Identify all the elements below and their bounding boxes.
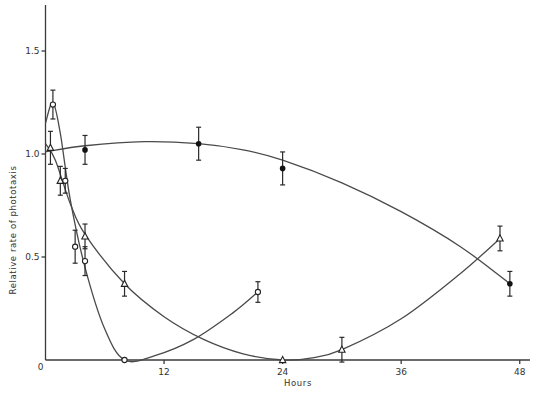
open-circle-marker (73, 244, 78, 249)
data-point (255, 282, 260, 303)
y-tick-label: 0.5 (25, 252, 39, 262)
data-point (339, 337, 345, 362)
filled-circle-marker (280, 166, 286, 172)
x-tick-label: 12 (158, 367, 169, 377)
fitted-curves (46, 102, 510, 361)
y-axis-label: Relative rate of phototaxis (8, 166, 18, 295)
data-point (121, 271, 127, 296)
x-tick-label: 48 (514, 367, 526, 377)
phototaxis-chart: 00.51.01.5 12243648 Hours Relative rate … (0, 0, 539, 395)
y-tick-label: 0 (38, 362, 44, 372)
fit-curve-open-triangle (46, 144, 500, 361)
open-circle-marker (82, 259, 87, 264)
data-point (82, 224, 88, 249)
y-tick-label: 1.0 (25, 149, 40, 159)
x-tick-label: 36 (395, 367, 407, 377)
open-triangle-marker (497, 235, 503, 241)
filled-circle-marker (507, 281, 513, 287)
open-circle-marker (255, 289, 260, 294)
x-axis-label: Hours (284, 378, 312, 388)
data-point (196, 127, 202, 160)
axes (46, 5, 531, 360)
open-circle-marker (50, 102, 55, 107)
open-circle-marker (122, 357, 127, 362)
data-point (122, 357, 127, 362)
x-tick-label: 24 (277, 367, 289, 377)
filled-circle-marker (82, 147, 88, 153)
data-point (507, 271, 513, 296)
y-ticks: 00.51.01.5 (25, 46, 45, 372)
filled-circle-marker (196, 141, 202, 147)
data-points (47, 90, 512, 362)
data-point (47, 131, 53, 164)
data-point (57, 166, 63, 195)
data-point (280, 152, 286, 185)
data-point (50, 90, 55, 119)
open-triangle-marker (82, 233, 88, 239)
data-point (82, 135, 88, 164)
y-tick-label: 1.5 (25, 46, 39, 56)
fit-curve-filled-circle (46, 142, 510, 284)
data-point (63, 168, 68, 193)
data-point (82, 247, 87, 276)
data-point (497, 226, 503, 251)
